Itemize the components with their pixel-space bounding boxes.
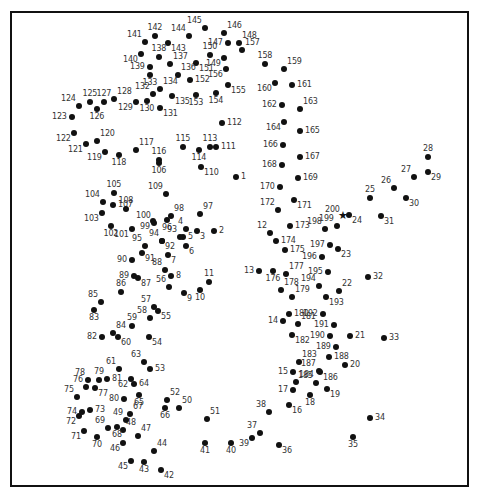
dot-44[interactable] <box>151 448 157 454</box>
dot-149[interactable] <box>221 55 227 61</box>
dot-166[interactable] <box>280 142 286 148</box>
dot-197[interactable] <box>327 242 333 248</box>
dot-198[interactable] <box>322 226 328 232</box>
dot-180[interactable] <box>286 311 292 317</box>
dot-100[interactable] <box>151 220 157 226</box>
dot-167[interactable] <box>297 154 303 160</box>
dot-79[interactable] <box>96 377 102 383</box>
dot-160[interactable] <box>272 80 278 86</box>
dot-142[interactable] <box>152 33 158 39</box>
dot-49[interactable] <box>123 417 129 423</box>
dot-192[interactable] <box>320 311 326 317</box>
dot-174[interactable] <box>273 238 279 244</box>
dot-86[interactable] <box>118 289 124 295</box>
dot-175[interactable] <box>282 247 288 253</box>
dot-121[interactable] <box>83 141 89 147</box>
dot-190[interactable] <box>327 333 333 339</box>
dot-187[interactable] <box>316 368 322 374</box>
dot-123[interactable] <box>69 114 75 120</box>
dot-119[interactable] <box>102 149 108 155</box>
dot-164[interactable] <box>281 119 287 125</box>
dot-124[interactable] <box>76 103 82 109</box>
dot-94[interactable] <box>159 238 165 244</box>
dot-132[interactable] <box>150 91 156 97</box>
dot-46[interactable] <box>120 440 126 446</box>
dot-98[interactable] <box>168 213 174 219</box>
dot-105[interactable] <box>111 190 117 196</box>
dot-179[interactable] <box>289 294 295 300</box>
dot-122[interactable] <box>71 130 77 136</box>
dot-111[interactable] <box>213 144 219 150</box>
dot-108[interactable] <box>123 206 129 212</box>
dot-73[interactable] <box>87 407 93 413</box>
dot-82[interactable] <box>99 334 105 340</box>
dot-53[interactable] <box>147 366 153 372</box>
dot-90[interactable] <box>129 257 135 263</box>
dot-75[interactable] <box>74 394 80 400</box>
dot-80[interactable] <box>121 396 127 402</box>
dot-169[interactable] <box>295 175 301 181</box>
dot-199[interactable] <box>334 223 340 229</box>
dot-14[interactable] <box>280 318 286 324</box>
dot-78[interactable] <box>85 377 91 383</box>
dot-57[interactable] <box>151 304 157 310</box>
dot-136[interactable] <box>175 72 181 78</box>
dot-145[interactable] <box>202 25 208 31</box>
dot-39[interactable] <box>249 435 255 441</box>
dot-113[interactable] <box>207 144 213 150</box>
dot-168[interactable] <box>279 162 285 168</box>
dot-139[interactable] <box>147 64 153 70</box>
dot-59[interactable] <box>129 323 135 329</box>
dot-141[interactable] <box>142 39 148 45</box>
dot-140[interactable] <box>138 51 144 57</box>
dot-69[interactable] <box>105 425 111 431</box>
dot-163[interactable] <box>297 106 303 112</box>
dot-177[interactable] <box>283 271 289 277</box>
dot-144[interactable] <box>186 33 192 39</box>
dot-115[interactable] <box>180 144 186 150</box>
dot-195[interactable] <box>325 269 331 275</box>
dot-50[interactable] <box>176 405 182 411</box>
dot-32[interactable] <box>365 274 371 280</box>
dot-52[interactable] <box>164 397 170 403</box>
dot-33[interactable] <box>381 335 387 341</box>
dot-159[interactable] <box>281 66 287 72</box>
dot-51[interactable] <box>204 416 210 422</box>
dot-76[interactable] <box>83 384 89 390</box>
dot-125[interactable] <box>87 99 93 105</box>
dot-11[interactable] <box>206 279 212 285</box>
dot-38[interactable] <box>266 409 272 415</box>
dot-34[interactable] <box>367 415 373 421</box>
dot-120[interactable] <box>94 138 100 144</box>
dot-157[interactable] <box>239 47 245 53</box>
dot-61[interactable] <box>116 366 122 372</box>
dot-181[interactable] <box>295 321 301 327</box>
dot-2[interactable] <box>211 228 217 234</box>
dot-156[interactable] <box>223 66 229 72</box>
dot-25[interactable] <box>367 195 373 201</box>
dot-8[interactable] <box>168 273 174 279</box>
dot-194[interactable] <box>316 283 322 289</box>
dot-173[interactable] <box>287 223 293 229</box>
dot-13[interactable] <box>256 268 262 274</box>
dot-45[interactable] <box>128 458 134 464</box>
dot-189[interactable] <box>333 344 339 350</box>
dot-148[interactable] <box>236 40 242 46</box>
dot-26[interactable] <box>391 185 397 191</box>
dot-161[interactable] <box>289 82 295 88</box>
dot-103[interactable] <box>99 210 105 216</box>
dot-158[interactable] <box>262 61 268 67</box>
dot-17[interactable] <box>290 387 296 393</box>
dot-64[interactable] <box>131 381 137 387</box>
dot-1[interactable] <box>233 174 239 180</box>
dot-22[interactable] <box>336 288 342 294</box>
dot-147[interactable] <box>225 40 231 46</box>
dot-56[interactable] <box>166 284 172 290</box>
dot-93[interactable] <box>177 234 183 240</box>
dot-170[interactable] <box>277 184 283 190</box>
dot-84[interactable] <box>110 330 116 336</box>
dot-146[interactable] <box>221 30 227 36</box>
dot-152[interactable] <box>187 77 193 83</box>
dot-196[interactable] <box>319 254 325 260</box>
dot-95[interactable] <box>142 243 148 249</box>
